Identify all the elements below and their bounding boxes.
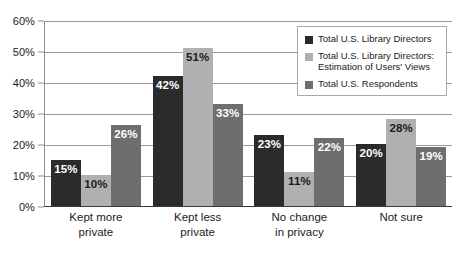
bar: 15% [51, 160, 81, 207]
bar-value-label: 42% [156, 79, 179, 91]
bar-value-label: 22% [318, 141, 341, 153]
y-tick-label: 20% [13, 139, 35, 151]
legend-item[interactable]: Total U.S. Respondents [305, 78, 439, 90]
bar: 26% [111, 125, 141, 206]
bar: 51% [183, 48, 213, 206]
y-tick-label: 40% [13, 77, 35, 89]
x-category-label-line: Kept more [45, 210, 147, 225]
bar: 28% [386, 119, 416, 206]
y-tick-label: 50% [13, 46, 35, 58]
legend-item[interactable]: Total U.S. Library Directors: Estimation… [305, 50, 439, 73]
x-category-label-line: private [45, 225, 147, 240]
bar: 11% [284, 172, 314, 206]
x-category-label-line: Not sure [350, 210, 452, 225]
bar-group: 15%10%26% [45, 21, 147, 206]
bar-chart: 0%10%20%30%40%50%60% 15%10%26%42%51%33%2… [0, 0, 467, 254]
bar-value-label: 20% [359, 147, 382, 159]
legend-swatch-icon [305, 53, 313, 61]
x-category-label-line: Kept less [147, 210, 249, 225]
bar-value-label: 51% [186, 51, 209, 63]
bar: 10% [81, 175, 111, 206]
x-category-label: Kept moreprivate [45, 210, 147, 240]
legend-swatch-icon [305, 81, 313, 89]
x-category-label-line: private [147, 225, 249, 240]
legend-swatch-icon [305, 36, 313, 44]
bar-value-label: 15% [54, 163, 77, 175]
bar-value-label: 33% [216, 107, 239, 119]
chart-legend: Total U.S. Library DirectorsTotal U.S. L… [297, 26, 447, 96]
bar-value-label: 26% [114, 128, 137, 140]
bar: 22% [314, 138, 344, 206]
bar-value-label: 19% [419, 150, 442, 162]
x-category-label: Kept lessprivate [147, 210, 249, 240]
y-tick-label: 10% [13, 170, 35, 182]
x-category-label: Not sure [350, 210, 452, 240]
x-category-label-line: No change [249, 210, 351, 225]
bar-value-label: 11% [288, 175, 311, 187]
bar: 33% [213, 104, 243, 206]
bar: 19% [416, 147, 446, 206]
bar: 23% [254, 135, 284, 206]
bar-group: 42%51%33% [147, 21, 249, 206]
legend-item[interactable]: Total U.S. Library Directors [305, 33, 439, 45]
x-category-label-line: in privacy [249, 225, 351, 240]
bar: 20% [356, 144, 386, 206]
bar-value-label: 10% [84, 178, 107, 190]
legend-item-label: Total U.S. Library Directors: Estimation… [318, 50, 439, 73]
bar-value-label: 23% [258, 138, 281, 150]
x-category-label: No changein privacy [249, 210, 351, 240]
legend-item-label: Total U.S. Library Directors [318, 33, 432, 45]
y-tick-label: 0% [19, 201, 35, 213]
x-axis-labels: Kept moreprivateKept lessprivateNo chang… [45, 210, 452, 240]
y-tick-label: 60% [13, 15, 35, 27]
y-axis: 0%10%20%30%40%50%60% [0, 0, 44, 254]
legend-item-label: Total U.S. Respondents [318, 78, 418, 90]
y-tick-label: 30% [13, 108, 35, 120]
bar-value-label: 28% [389, 122, 412, 134]
x-axis-line [44, 206, 452, 207]
bar: 42% [153, 76, 183, 206]
